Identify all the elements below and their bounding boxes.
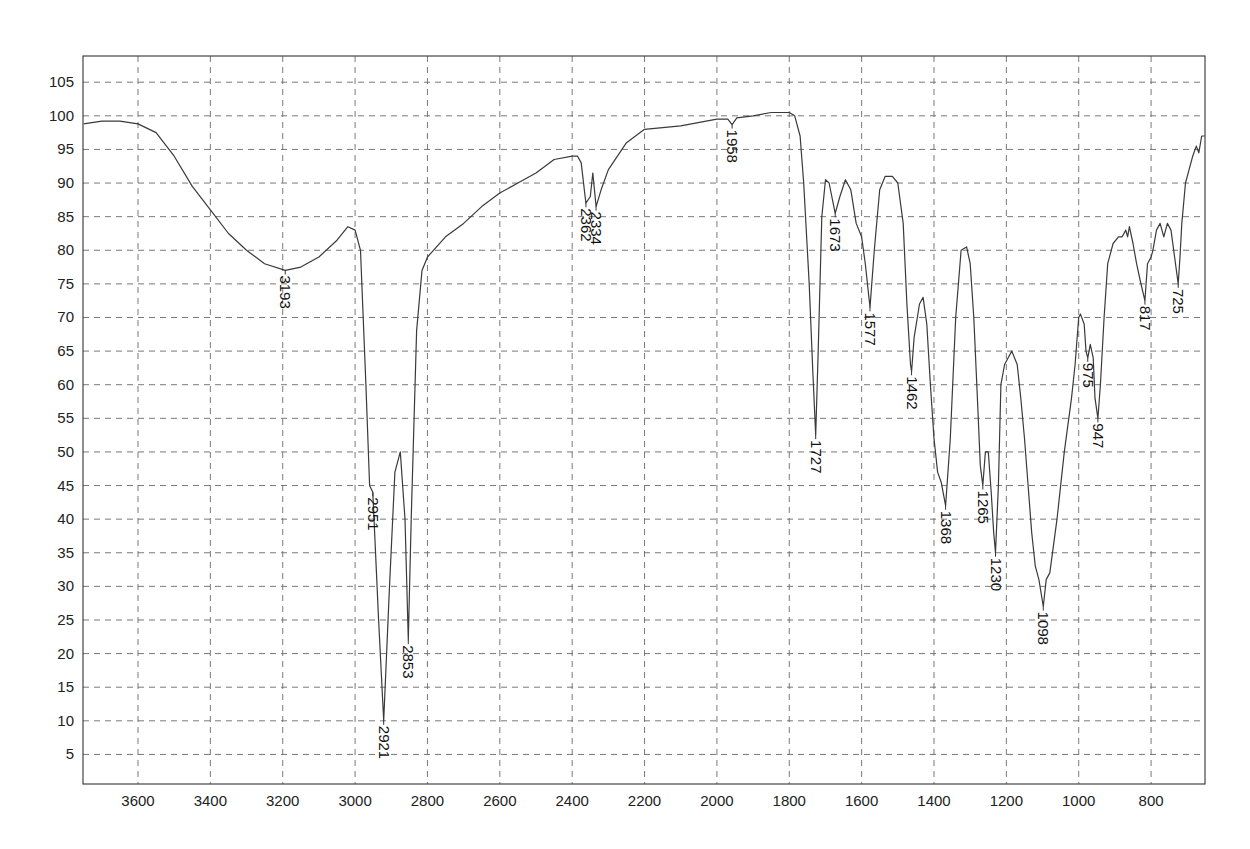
y-tick-label: 45 [57,477,74,494]
peak-label: 817 [1137,306,1154,331]
y-tick-label: 5 [66,745,74,762]
x-tick-label: 1200 [990,792,1023,809]
x-tick-label: 2400 [555,792,588,809]
y-tick-label: 20 [57,645,74,662]
grid-lines [83,56,1205,784]
y-tick-label: 90 [57,174,74,191]
x-tick-label: 3400 [194,792,227,809]
y-tick-label: 10 [57,712,74,729]
peak-label: 1577 [862,312,879,345]
x-tick-label: 2800 [411,792,444,809]
peak-label: 1727 [808,440,825,473]
y-tick-label: 50 [57,443,74,460]
peak-label: 1368 [938,511,955,544]
peak-label: 2853 [400,645,417,678]
peak-label: 1462 [904,376,921,409]
x-tick-label: 800 [1139,792,1164,809]
x-tick-label: 2000 [700,792,733,809]
x-tick-label: 2600 [483,792,516,809]
y-tick-label: 70 [57,308,74,325]
x-axis-tick-labels: 3600340032003000280026002400220020001800… [121,792,1163,809]
y-tick-label: 85 [57,208,74,225]
y-tick-label: 60 [57,376,74,393]
peak-label: 975 [1080,363,1097,388]
y-tick-label: 55 [57,409,74,426]
peak-label: 2921 [376,726,393,759]
y-axis-tick-labels: 5101520253035404550556065707580859095100… [49,73,74,762]
y-tick-label: 25 [57,611,74,628]
plot-frame [83,56,1205,784]
x-tick-label: 2200 [628,792,661,809]
x-tick-label: 1800 [773,792,806,809]
x-tick-label: 3000 [338,792,371,809]
x-tick-label: 1600 [845,792,878,809]
peak-label: 2951 [365,497,382,530]
peak-label: 2334 [588,212,605,245]
ir-spectrum-chart: 5101520253035404550556065707580859095100… [0,0,1250,849]
peak-label: 3193 [277,275,294,308]
y-tick-label: 100 [49,107,74,124]
chart-canvas: 5101520253035404550556065707580859095100… [0,0,1250,849]
peak-label: 1673 [827,218,844,251]
y-tick-label: 40 [57,510,74,527]
y-tick-label: 75 [57,275,74,292]
peak-label: 1265 [975,491,992,524]
peak-label: 947 [1090,423,1107,448]
y-tick-label: 30 [57,577,74,594]
peak-label: 725 [1170,289,1187,314]
x-tick-label: 3200 [266,792,299,809]
x-tick-label: 1400 [917,792,950,809]
y-tick-label: 35 [57,544,74,561]
y-tick-label: 15 [57,678,74,695]
y-tick-label: 65 [57,342,74,359]
peak-label: 1958 [724,130,741,163]
y-tick-label: 95 [57,140,74,157]
x-tick-label: 1000 [1062,792,1095,809]
peak-label: 1230 [988,558,1005,591]
y-tick-label: 105 [49,73,74,90]
peak-label: 1098 [1035,612,1052,645]
x-tick-label: 3600 [121,792,154,809]
y-tick-label: 80 [57,241,74,258]
